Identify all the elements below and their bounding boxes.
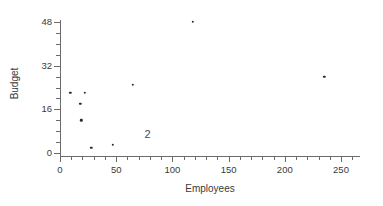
data-point	[80, 119, 82, 121]
data-point	[69, 92, 71, 94]
data-point	[112, 144, 114, 146]
scatter-chart: 0163248 050100150200250 Budget Employees…	[0, 0, 383, 206]
chart-annotation: 2	[145, 128, 151, 140]
data-point	[84, 92, 86, 94]
data-point	[191, 21, 193, 23]
data-point	[132, 84, 134, 86]
data-point	[79, 103, 81, 105]
plot-area: 2	[0, 0, 383, 206]
data-point	[90, 146, 92, 148]
data-point	[323, 75, 325, 77]
